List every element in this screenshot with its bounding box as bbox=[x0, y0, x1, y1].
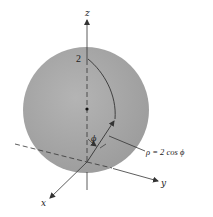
z-axis-label: z bbox=[84, 8, 90, 18]
y-axis-label: y bbox=[160, 178, 167, 188]
center-point bbox=[85, 107, 88, 110]
phi-label: ϕ bbox=[91, 134, 97, 143]
equation-label: ρ = 2 cos ϕ bbox=[145, 147, 185, 157]
x-axis-label: x bbox=[41, 198, 46, 208]
sphere-diagram: z y x 2 ϕ ρ = 2 cos ϕ bbox=[0, 0, 213, 217]
value-2-label: 2 bbox=[76, 53, 81, 64]
